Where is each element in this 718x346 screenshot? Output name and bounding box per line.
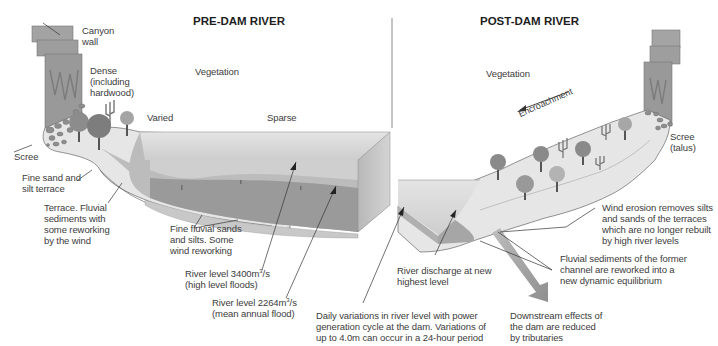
- label-sparse: Sparse: [267, 112, 297, 123]
- diagram-illustration: [0, 0, 718, 346]
- label-scree-talus: Scree (talus): [670, 131, 696, 153]
- label-daily-variations: Daily variations in river level with pow…: [316, 310, 486, 343]
- label-scree: Scree: [14, 151, 38, 162]
- label-downstream: Downstream effects of the dam are reduce…: [510, 310, 602, 343]
- label-vegetation-post: Vegetation: [486, 68, 530, 79]
- pre-dam-title: PRE-DAM RIVER: [193, 15, 285, 27]
- label-terrace-fluvial: Terrace. Fluvial sediments with some rew…: [44, 202, 110, 246]
- label-fine-sand-terrace: Fine sand and silt terrace: [22, 172, 81, 194]
- label-dense: Dense (including hardwood): [90, 65, 134, 98]
- label-river-level-high: River level 3400m3/s(high level floods): [185, 266, 270, 290]
- river-dam-diagram: PRE-DAM RIVER POST-DAM RIVER Canyon wall…: [0, 0, 718, 346]
- label-wind-erosion: Wind erosion removes silts and sands of …: [602, 202, 713, 246]
- label-fine-fluvial: Fine fluvial sands and silts. Some wind …: [170, 223, 242, 256]
- label-fluvial-sediments: Fluvial sediments of the former channel …: [560, 253, 687, 286]
- label-river-discharge: River discharge at new highest level: [397, 265, 491, 287]
- label-vegetation-pre: Vegetation: [195, 66, 239, 77]
- label-varied: Varied: [147, 112, 173, 123]
- label-canyon-wall: Canyon wall: [82, 25, 114, 47]
- pre-dam-water-block: [129, 132, 390, 232]
- label-river-level-mean: River level 2264m3/s(mean annual flood): [212, 295, 297, 319]
- post-dam-title: POST-DAM RIVER: [480, 15, 579, 27]
